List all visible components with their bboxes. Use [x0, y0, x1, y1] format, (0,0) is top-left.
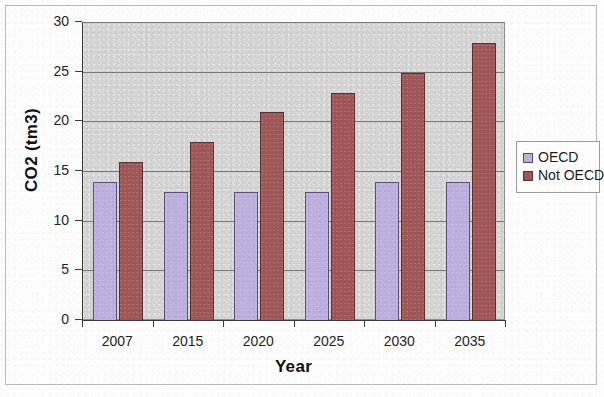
x-axis-tick [364, 321, 365, 327]
legend-item-oecd[interactable]: OECD [523, 150, 594, 165]
y-axis-tick-label: 30 [29, 14, 69, 28]
y-axis-tick [75, 319, 82, 320]
bar-scan-texture [376, 183, 398, 320]
gridline [83, 221, 504, 222]
bar-oecd-2007 [93, 182, 117, 321]
bar-scan-texture [306, 193, 328, 320]
bar-scan-texture [191, 143, 213, 320]
y-axis-title: CO2 (tm3) [22, 80, 42, 220]
bar-oecd-2020 [234, 192, 258, 321]
bar-oecd-2030 [375, 182, 399, 321]
gridline [83, 72, 504, 73]
bar-not-oecd-2020 [260, 112, 284, 321]
legend-item-not-oecd[interactable]: Not OECD [523, 168, 594, 183]
y-axis-tick [75, 71, 82, 72]
bar-scan-texture [402, 74, 424, 320]
bar-not-oecd-2015 [190, 142, 214, 321]
x-axis-tick [223, 321, 224, 327]
x-axis-tick-label: 2025 [294, 333, 364, 349]
bar-scan-texture [120, 163, 142, 320]
bar-oecd-2015 [164, 192, 188, 321]
x-axis-tick [294, 321, 295, 327]
y-axis-tick [75, 269, 82, 270]
y-axis-tick-label: 25 [29, 64, 69, 78]
x-axis-tick-label: 2020 [223, 333, 293, 349]
y-axis-tick-label: 5 [29, 262, 69, 276]
legend-label: Not OECD [538, 168, 604, 183]
x-axis-tick [153, 321, 154, 327]
x-axis-tick-label: 2007 [82, 333, 152, 349]
bar-not-oecd-2025 [331, 93, 355, 321]
y-axis-tick [75, 220, 82, 221]
legend-swatch-icon [523, 153, 533, 163]
legend-label: OECD [538, 150, 578, 165]
bar-oecd-2035 [446, 182, 470, 321]
gridline [83, 22, 504, 23]
x-axis-tick-label: 2035 [435, 333, 505, 349]
gridline [83, 171, 504, 172]
bar-not-oecd-2007 [119, 162, 143, 321]
bar-scan-texture [235, 193, 257, 320]
bar-oecd-2025 [305, 192, 329, 321]
x-axis-tick [435, 321, 436, 327]
gridline [83, 121, 504, 122]
gridline [83, 270, 504, 271]
bar-scan-texture [473, 44, 495, 320]
x-axis-tick-label: 2030 [364, 333, 434, 349]
x-axis-tick-label: 2015 [153, 333, 223, 349]
bar-scan-texture [165, 193, 187, 320]
y-axis-tick [75, 120, 82, 121]
x-axis-tick [82, 321, 83, 327]
y-axis-tick-label: 0 [29, 312, 69, 326]
x-axis-title: Year [82, 357, 505, 377]
bar-scan-texture [332, 94, 354, 320]
bar-scan-texture [447, 183, 469, 320]
plot-area [82, 22, 505, 320]
x-axis-tick [505, 321, 506, 327]
bar-scan-texture [94, 183, 116, 320]
y-axis-tick [75, 170, 82, 171]
bar-not-oecd-2035 [472, 43, 496, 321]
bar-scan-texture [261, 113, 283, 320]
bar-not-oecd-2030 [401, 73, 425, 321]
y-axis-line [82, 22, 83, 321]
y-axis-tick [75, 21, 82, 22]
legend-swatch-icon [523, 171, 533, 181]
chart-legend: OECDNot OECD [516, 141, 600, 193]
